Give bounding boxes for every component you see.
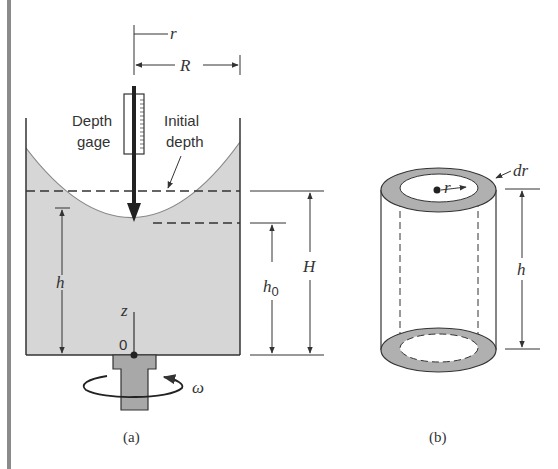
label-initial-depth-2: depth bbox=[166, 133, 204, 150]
initial-depth-pointer bbox=[168, 156, 181, 188]
label-initial-depth-1: Initial bbox=[164, 112, 199, 129]
label-H: H bbox=[302, 257, 317, 276]
label-h: h bbox=[56, 273, 65, 292]
label-depth-gage-2: gage bbox=[77, 133, 110, 150]
caption-b: (b) bbox=[429, 429, 447, 446]
label-r: r bbox=[170, 24, 177, 43]
label-h-b: h bbox=[517, 260, 526, 279]
diagram-canvas: r R Depth gage Initial depth h bbox=[0, 0, 558, 469]
origin-dot bbox=[131, 352, 138, 359]
figure-b: r dr h (b) bbox=[381, 161, 540, 446]
left-margin-bar bbox=[7, 0, 11, 469]
label-omega: ω bbox=[192, 378, 204, 397]
label-origin: 0 bbox=[119, 336, 127, 353]
label-r-b: r bbox=[444, 178, 451, 197]
label-z: z bbox=[120, 301, 128, 320]
figure-a: r R Depth gage Initial depth h bbox=[26, 24, 324, 446]
rotating-base bbox=[113, 355, 156, 410]
label-depth-gage-1: Depth bbox=[72, 112, 112, 129]
label-h0: h0 bbox=[263, 277, 279, 299]
center-dot bbox=[434, 187, 441, 194]
caption-a: (a) bbox=[123, 429, 140, 446]
label-dr: dr bbox=[513, 161, 529, 180]
bottom-annulus-inner bbox=[400, 334, 478, 362]
label-R: R bbox=[179, 56, 191, 75]
